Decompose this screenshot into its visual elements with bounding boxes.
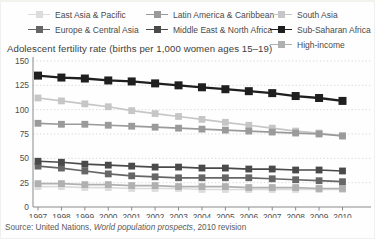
legend-item-south-asia: South Asia [270, 10, 372, 20]
source-note: Source: United Nations, World population… [5, 223, 246, 232]
svg-text:2010: 2010 [333, 212, 352, 218]
svg-text:100: 100 [15, 105, 29, 115]
legend-label: South Asia [297, 10, 338, 20]
svg-text:75: 75 [20, 129, 30, 139]
svg-text:2004: 2004 [193, 212, 212, 218]
svg-text:1997: 1997 [29, 212, 48, 218]
svg-text:125: 125 [15, 80, 29, 90]
legend-marker-icon [28, 25, 50, 34]
svg-text:2001: 2001 [122, 212, 141, 218]
svg-text:2000: 2000 [99, 212, 118, 218]
svg-text:1999: 1999 [76, 212, 95, 218]
chart-title: Adolescent fertility rate (births per 1,… [7, 43, 272, 54]
legend-marker-icon [146, 25, 168, 34]
chart-panel: East Asia & Pacific Latin America & Cari… [0, 0, 375, 239]
legend-item-sub-saharan-africa: Sub-Saharan Africa [270, 25, 372, 35]
legend-item-high-income: High-income [270, 40, 372, 50]
svg-text:25: 25 [20, 178, 30, 188]
svg-text:150: 150 [15, 56, 29, 66]
legend-item-east-asia-pacific: East Asia & Pacific [28, 10, 146, 20]
legend-label: Latin America & Caribbean [173, 10, 274, 20]
svg-text:2002: 2002 [146, 212, 165, 218]
svg-text:2003: 2003 [169, 212, 188, 218]
legend-marker-icon [146, 10, 168, 19]
svg-text:0: 0 [24, 202, 29, 212]
legend-item-europe-central-asia: Europe & Central Asia [28, 25, 146, 35]
legend-marker-icon [28, 10, 50, 19]
top-strip [0, 0, 375, 2]
legend-label: Europe & Central Asia [55, 25, 139, 35]
source-suffix: , 2010 revision [193, 223, 246, 232]
svg-text:50: 50 [20, 153, 30, 163]
svg-text:2008: 2008 [286, 212, 305, 218]
legend-label: High-income [297, 40, 345, 50]
legend-marker-icon [270, 10, 292, 19]
legend-item-middle-east-north-africa: Middle East & North Africa [146, 25, 270, 35]
legend-marker-icon [270, 40, 292, 49]
svg-text:2007: 2007 [263, 212, 282, 218]
svg-text:2005: 2005 [216, 212, 235, 218]
svg-text:1998: 1998 [52, 212, 71, 218]
legend-label: Sub-Saharan Africa [297, 25, 371, 35]
fertility-line-chart: 0255075100125150199719981999200020012002… [0, 55, 375, 218]
legend-item-latin-america-caribbean: Latin America & Caribbean [146, 10, 270, 20]
source-title: World population prospects [94, 223, 193, 232]
legend-label: East Asia & Pacific [55, 10, 126, 20]
svg-text:2009: 2009 [310, 212, 329, 218]
legend-marker-icon [270, 25, 292, 34]
source-prefix: Source: United Nations, [5, 223, 94, 232]
svg-text:2006: 2006 [240, 212, 259, 218]
legend-label: Middle East & North Africa [173, 25, 272, 35]
